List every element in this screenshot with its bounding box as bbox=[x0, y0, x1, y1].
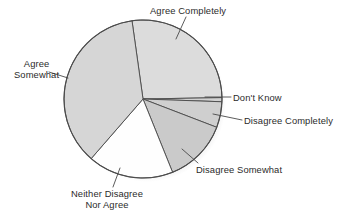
slice-label-agree-somewhat-line2: Somewhat bbox=[14, 69, 59, 80]
slice-label-dont-know: Don't Know bbox=[233, 92, 282, 103]
pie-chart-figure: Agree Completely Agree Somewhat Don't Kn… bbox=[0, 0, 337, 221]
slice-label-neither-line2: Nor Agree bbox=[71, 199, 143, 210]
slice-label-neither-disagree-nor-agree: Neither Disagree Nor Agree bbox=[71, 188, 143, 210]
pie-slice-group bbox=[64, 20, 222, 178]
pie-chart-graphic bbox=[0, 0, 337, 221]
slice-label-disagree-somewhat: Disagree Somewhat bbox=[196, 164, 282, 175]
pie-slice bbox=[132, 20, 222, 99]
slice-label-neither-line1: Neither Disagree bbox=[71, 188, 143, 199]
slice-label-disagree-completely: Disagree Completely bbox=[244, 115, 333, 126]
slice-label-agree-somewhat: Agree Somewhat bbox=[14, 58, 59, 80]
slice-label-agree-somewhat-line1: Agree bbox=[14, 58, 59, 69]
slice-label-agree-completely: Agree Completely bbox=[150, 5, 226, 16]
